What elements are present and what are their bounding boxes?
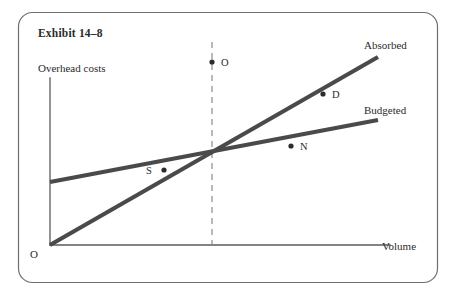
budgeted-line-label: Budgeted: [364, 104, 407, 116]
data-point-o-marker: [209, 59, 214, 64]
exhibit-figure: Exhibit 14–8 Overhead costs O Volume Abs…: [0, 0, 454, 295]
data-point-n-marker: [288, 143, 293, 148]
data-point-s-label: S: [146, 165, 152, 176]
data-point-d-marker: [320, 91, 325, 96]
absorbed-line-label: Absorbed: [364, 39, 407, 51]
data-point-d-label: D: [332, 89, 340, 100]
exhibit-title: Exhibit 14–8: [38, 27, 103, 39]
y-axis-title: Overhead costs: [38, 62, 106, 74]
origin-label: O: [30, 248, 38, 260]
data-point-n-label: N: [300, 141, 308, 152]
data-point-s-marker: [161, 167, 166, 172]
x-axis-title: Volume: [382, 240, 416, 252]
data-point-o-label: O: [221, 57, 229, 68]
overhead-volume-chart: Exhibit 14–8 Overhead costs O Volume Abs…: [0, 0, 454, 295]
